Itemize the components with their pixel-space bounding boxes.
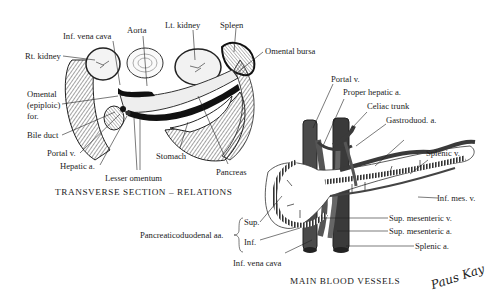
- label-omental-foramen-3: for.: [27, 111, 39, 121]
- label-gastroduod-a: Gastroduod. a.: [386, 115, 436, 125]
- label-stomach: Stomach: [156, 151, 186, 161]
- label-hepatic-a: Hepatic a.: [60, 161, 95, 171]
- caption-transverse-section: TRANSVERSE SECTION – RELATIONS: [55, 187, 233, 197]
- label-pancreas: Pancreas: [216, 167, 247, 177]
- label-lesser-omentum: Lesser omentum: [105, 173, 162, 183]
- label-spleen: Spleen: [220, 20, 243, 30]
- label-celiac-trunk: Celiac trunk: [367, 101, 409, 111]
- label-omental-foramen-1: Omental: [27, 89, 57, 99]
- label-rt-kidney: Rt. kidney: [25, 51, 61, 61]
- label-splenic-a: Splenic a.: [415, 241, 449, 251]
- label-portal-v: Portal v.: [47, 148, 76, 158]
- label-proper-hepatic-a: Proper hepatic a.: [343, 87, 401, 97]
- transverse-section-drawing: [65, 43, 254, 161]
- label-inf-vena-cava: Inf. vena cava: [63, 31, 111, 41]
- label-omental-foramen-2: (epiploic): [27, 100, 60, 110]
- label-inf: Inf.: [244, 237, 256, 247]
- label-inf-vena-cava-right: Inf. vena cava: [233, 258, 281, 268]
- label-splenic-v: Splenic v.: [426, 148, 460, 158]
- label-sup-mesenteric-v: Sup. mesenteric v.: [389, 213, 452, 223]
- label-sup: Sup.: [244, 217, 260, 227]
- label-inf-mes-v: Inf. mes. v.: [437, 193, 475, 203]
- label-lt-kidney: Lt. kidney: [165, 20, 200, 30]
- label-bile-duct: Bile duct: [27, 130, 58, 140]
- label-pancreaticoduodenal: Pancreaticoduodenal aa.: [140, 230, 224, 240]
- label-portal-v-right: Portal v.: [331, 74, 360, 84]
- label-omental-bursa: Omental bursa: [265, 46, 315, 56]
- label-aorta: Aorta: [127, 25, 147, 35]
- label-sup-mesenteric-a: Sup. mesenteric a.: [389, 226, 452, 236]
- caption-main-blood-vessels: MAIN BLOOD VESSELS: [290, 276, 400, 286]
